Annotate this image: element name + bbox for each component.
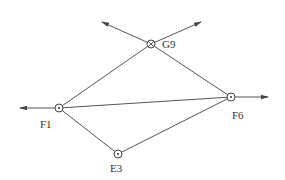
edge-f1-e3 <box>59 108 118 154</box>
edge-g9-f6 <box>151 44 231 97</box>
node-label-g9: G9 <box>162 38 176 50</box>
edges <box>59 44 231 154</box>
node-label-f1: F1 <box>40 118 52 130</box>
network-diagram: G9F1F6E3 <box>0 0 285 180</box>
node-f6 <box>227 93 235 101</box>
node-g9 <box>147 40 155 48</box>
arrow-g9-up-left <box>102 22 151 44</box>
edge-f1-g9 <box>59 44 151 108</box>
edge-e3-f6 <box>118 97 231 154</box>
node-label-f6: F6 <box>232 109 244 121</box>
arrow-g9-up-right <box>151 22 201 44</box>
node-e3 <box>114 150 122 158</box>
node-label-e3: E3 <box>110 162 123 174</box>
edge-f1-f6 <box>59 97 231 108</box>
node-f1 <box>55 104 63 112</box>
